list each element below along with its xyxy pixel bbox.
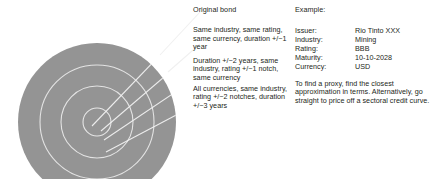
tier-2-label: Duration +/−2 years, same industry, rati… xyxy=(193,57,289,83)
table-row: Currency: USD xyxy=(295,63,441,72)
proxy-guidance-note: To find a proxy, find the closest approx… xyxy=(295,80,441,106)
example-column: Example: Issuer: Rio Tinto XXX Industry:… xyxy=(295,5,441,105)
bullseye-ring-outer xyxy=(18,43,176,179)
tier-3-label: All currencies, same industry, rating +/… xyxy=(193,85,289,111)
example-bond-spec-table: Issuer: Rio Tinto XXX Industry: Mining R… xyxy=(295,27,441,72)
diagram-canvas: Original bond Same industry, same rating… xyxy=(0,0,444,179)
bullseye-diagram xyxy=(0,0,200,179)
example-heading: Example: xyxy=(295,5,441,14)
field-value-currency: USD xyxy=(355,63,441,72)
original-bond-column: Original bond Same industry, same rating… xyxy=(193,5,289,110)
bullseye-svg xyxy=(0,0,200,179)
original-bond-heading: Original bond xyxy=(193,5,289,14)
table-body: Issuer: Rio Tinto XXX Industry: Mining R… xyxy=(295,27,441,72)
field-label-currency: Currency: xyxy=(295,63,355,72)
tier-1-label: Same industry, same rating, same currenc… xyxy=(193,26,289,52)
